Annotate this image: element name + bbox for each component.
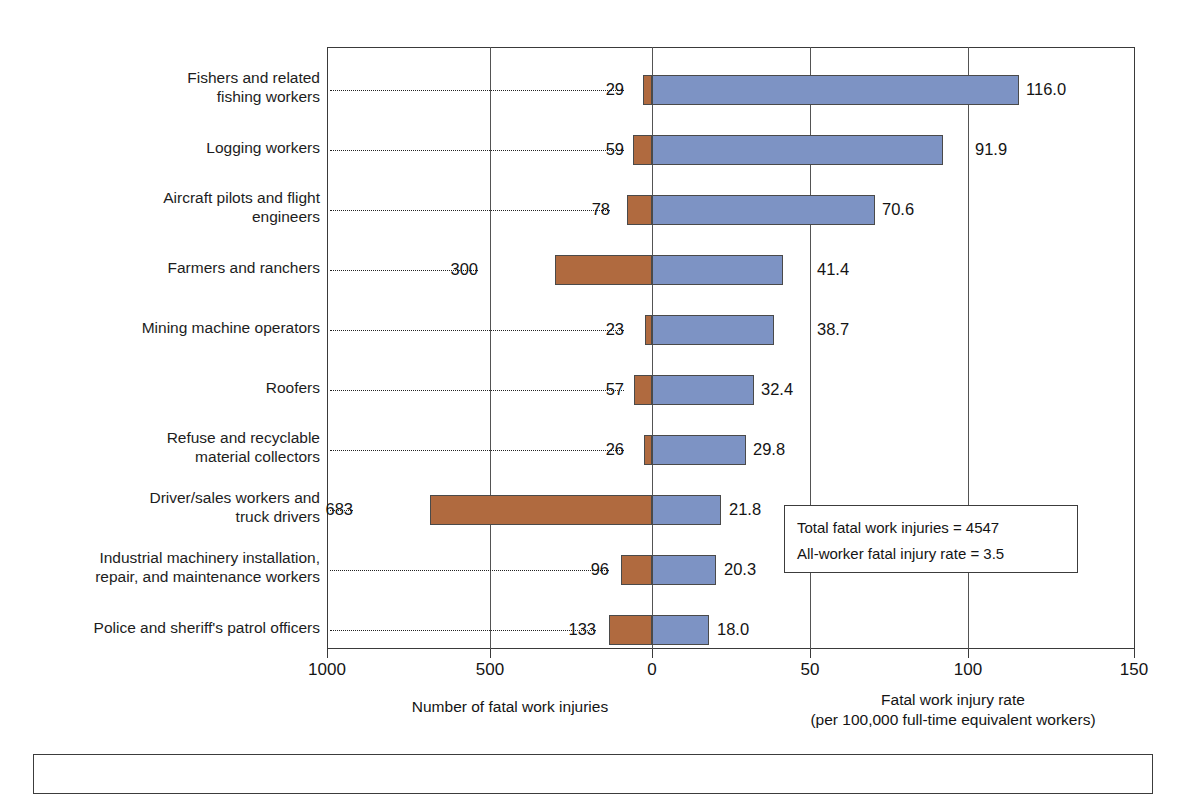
rate-value-label: 18.0 — [717, 620, 749, 639]
rate-value-label: 70.6 — [882, 200, 914, 219]
count-bar — [644, 435, 652, 465]
all-worker-rate-text: All-worker fatal injury rate = 3.5 — [797, 541, 1065, 567]
chart-row: Police and sheriff's patrol officers 133… — [0, 602, 1187, 662]
count-value-label: 96 — [529, 560, 609, 579]
rate-bar — [652, 615, 709, 645]
axis-tick-label: 50 — [770, 660, 850, 680]
axis-tick — [327, 649, 328, 658]
category-label: Mining machine operators — [0, 318, 320, 337]
count-value-label: 26 — [544, 440, 624, 459]
rate-value-label: 38.7 — [817, 320, 849, 339]
rate-value-label: 21.8 — [729, 500, 761, 519]
chart-row: Fishers and related fishing workers 29 1… — [0, 62, 1187, 122]
category-label: Roofers — [0, 378, 320, 397]
axis-tick — [1134, 649, 1135, 658]
axis-tick-label: 500 — [450, 660, 530, 680]
chart-row: Roofers 57 32.4 — [0, 362, 1187, 422]
rate-bar — [652, 315, 774, 345]
axis-tick-label: 1000 — [287, 660, 367, 680]
rate-bar — [652, 435, 746, 465]
axis-tick — [490, 649, 491, 658]
rate-value-label: 116.0 — [1026, 80, 1066, 99]
count-value-label: 59 — [544, 140, 624, 159]
rate-value-label: 32.4 — [761, 380, 793, 399]
count-value-label: 29 — [544, 80, 624, 99]
axis-tick-label: 150 — [1094, 660, 1174, 680]
category-label: Fishers and related fishing workers — [0, 68, 320, 106]
axis-tick — [652, 649, 653, 658]
rate-value-label: 29.8 — [753, 440, 785, 459]
count-value-label: 133 — [516, 620, 596, 639]
axis-tick-label: 0 — [612, 660, 692, 680]
category-label: Driver/sales workers and truck drivers — [0, 488, 320, 526]
chart-row: Mining machine operators 23 38.7 — [0, 302, 1187, 362]
count-bar — [633, 135, 652, 165]
count-bar — [555, 255, 652, 285]
category-label: Logging workers — [0, 138, 320, 157]
count-bar — [609, 615, 652, 645]
rate-bar — [652, 495, 721, 525]
category-label: Aircraft pilots and flight engineers — [0, 188, 320, 226]
right-axis-caption: Fatal work injury rate (per 100,000 full… — [788, 690, 1118, 730]
count-bar — [645, 315, 652, 345]
category-label: Farmers and ranchers — [0, 258, 320, 277]
chart-row: Logging workers 59 91.9 — [0, 122, 1187, 182]
rate-bar — [652, 195, 875, 225]
rate-value-label: 41.4 — [817, 260, 849, 279]
category-label: Industrial machinery installation, repai… — [0, 548, 320, 586]
count-value-label: 683 — [273, 500, 353, 519]
rate-bar — [652, 555, 716, 585]
count-bar — [430, 495, 652, 525]
chart-row: Refuse and recyclable material collector… — [0, 422, 1187, 482]
count-bar — [621, 555, 652, 585]
summary-annotation-box: Total fatal work injuries = 4547 All-wor… — [784, 505, 1078, 573]
count-value-label: 78 — [530, 200, 610, 219]
total-fatal-injuries-text: Total fatal work injuries = 4547 — [797, 515, 1065, 541]
chart-row: Aircraft pilots and flight engineers 78 … — [0, 182, 1187, 242]
rate-value-label: 91.9 — [975, 140, 1007, 159]
rate-bar — [652, 255, 783, 285]
rate-value-label: 20.3 — [724, 560, 756, 579]
category-label: Police and sheriff's patrol officers — [0, 618, 320, 637]
count-bar — [627, 195, 652, 225]
axis-tick — [810, 649, 811, 658]
count-bar — [643, 75, 652, 105]
rate-bar — [652, 375, 754, 405]
count-value-label: 300 — [398, 260, 478, 279]
axis-tick — [968, 649, 969, 658]
left-axis-caption: Number of fatal work injuries — [360, 697, 660, 717]
footnote-box — [33, 754, 1153, 794]
axis-tick-label: 100 — [928, 660, 1008, 680]
rate-bar — [652, 135, 943, 165]
chart-row: Farmers and ranchers 300 41.4 — [0, 242, 1187, 302]
count-bar — [634, 375, 652, 405]
category-label: Refuse and recyclable material collector… — [0, 428, 320, 466]
count-value-label: 57 — [544, 380, 624, 399]
rate-bar — [652, 75, 1019, 105]
count-value-label: 23 — [544, 320, 624, 339]
